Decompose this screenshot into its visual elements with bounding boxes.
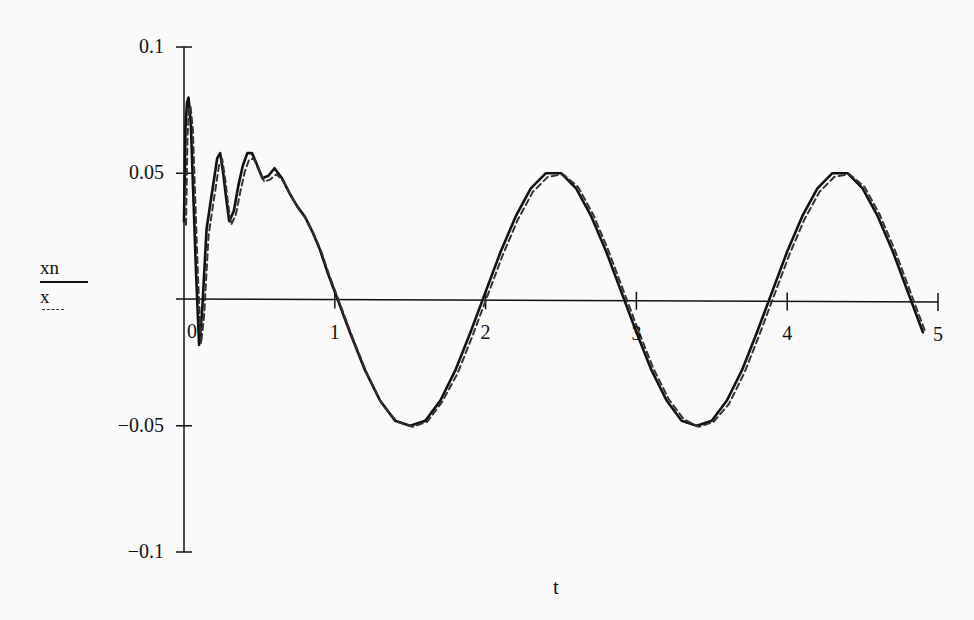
- x-tick-label: 2: [471, 322, 501, 342]
- y-tick-label: −0.05: [84, 415, 164, 435]
- legend-swatch-dashed: [42, 309, 64, 310]
- x-tick-label: 5: [923, 324, 953, 344]
- series-group: [184, 98, 925, 427]
- x-tick-label: 4: [772, 323, 802, 343]
- x-ticks: [335, 291, 938, 311]
- legend-label-xn: xn: [40, 258, 88, 278]
- y-tick-label: −0.1: [84, 541, 164, 561]
- legend-swatch-solid: [40, 281, 88, 283]
- legend: xn x: [40, 258, 88, 310]
- y-tick-label: 0.1: [84, 36, 164, 56]
- x-tick-label: 1: [320, 322, 350, 342]
- x-axis: [176, 299, 938, 302]
- series-line-x: [186, 106, 925, 427]
- x-axis-title: t: [553, 575, 559, 600]
- series-line-xn: [184, 98, 923, 426]
- x-tick-label: 3: [621, 323, 651, 343]
- axes: [176, 47, 938, 552]
- y-tick-label: 0.05: [84, 162, 164, 182]
- line-chart: [0, 0, 974, 620]
- legend-label-x: x: [40, 287, 88, 307]
- x-tick-label: 0: [177, 321, 207, 341]
